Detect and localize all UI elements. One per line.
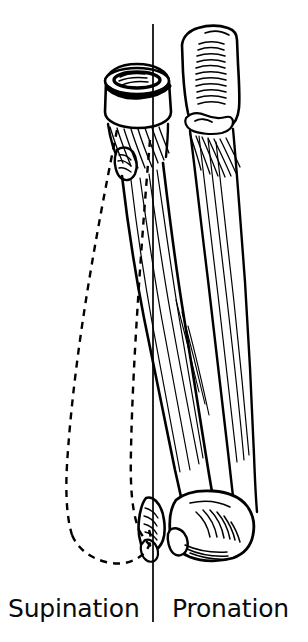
supination-label: Supination	[8, 596, 140, 621]
pronation-label: Pronation	[172, 596, 289, 621]
radial-styloid	[168, 528, 188, 555]
forearm-bones-illustration	[0, 0, 308, 642]
forearm-rotation-figure: Supination Pronation	[0, 0, 308, 642]
trochlear-notch	[185, 113, 233, 134]
